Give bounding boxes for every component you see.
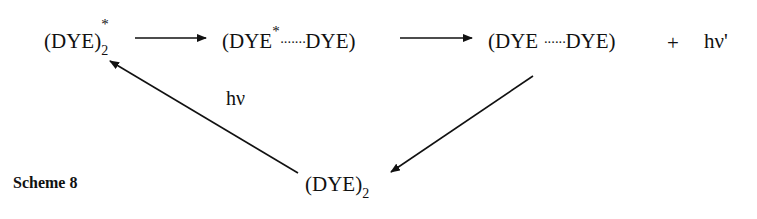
arrow-pair-to-ground-dimer <box>391 76 533 172</box>
scheme-caption: Scheme 8 <box>13 174 77 192</box>
plus-sign: + <box>667 33 679 54</box>
ground-dimer-subscript: 2 <box>362 186 369 201</box>
ground-pair-close: DYE) <box>565 29 615 53</box>
arrows-layer <box>0 0 757 219</box>
emission-hv-prime: hν' <box>704 31 728 52</box>
excimer-star: * <box>272 23 280 39</box>
excimer-dots: ······· <box>280 35 306 50</box>
ground-dimer: (DYE)2 <box>305 174 369 195</box>
ground-dimer-base: (DYE) <box>305 172 362 196</box>
absorption-label: hν <box>226 88 245 108</box>
excimer-complex: (DYE*·······DYE) <box>222 31 355 52</box>
excited-dimer-base: (DYE) <box>44 29 101 53</box>
excited-dimer-star: * <box>101 17 109 32</box>
excited-dimer-subscript: 2 <box>101 43 108 58</box>
ground-pair-open: (DYE <box>488 29 538 53</box>
ground-pair-dots: ······ <box>543 35 565 50</box>
ground-pair-complex: (DYE ······DYE) <box>488 31 616 52</box>
arrow-absorption-hv <box>110 61 298 173</box>
excited-dimer: (DYE)*2 <box>44 31 108 52</box>
excimer-close: DYE) <box>305 29 355 53</box>
excimer-open: (DYE <box>222 29 272 53</box>
